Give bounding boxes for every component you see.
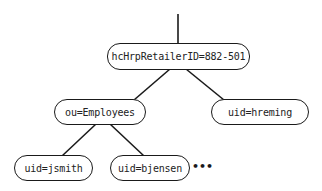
directory-tree-diagram: hcHrpRetailerID=882-501 ou=Employees uid…	[0, 0, 322, 191]
edge-root-to-hreming	[186, 69, 224, 100]
node-bjensen-label: uid=bjensen	[118, 163, 182, 174]
node-employees: ou=Employees	[54, 99, 146, 125]
more-siblings-ellipsis: •••	[192, 160, 213, 173]
node-jsmith: uid=jsmith	[14, 155, 93, 181]
node-hreming-label: uid=hreming	[228, 107, 292, 118]
node-employees-label: ou=Employees	[65, 107, 135, 118]
edge-employees-to-bjensen	[110, 124, 144, 156]
node-jsmith-label: uid=jsmith	[24, 163, 82, 174]
node-bjensen: uid=bjensen	[110, 155, 190, 181]
node-root: hcHrpRetailerID=882-501	[107, 43, 250, 70]
node-hreming: uid=hreming	[211, 99, 309, 125]
edge-employees-to-jsmith	[62, 124, 96, 156]
edge-root-to-employees	[134, 69, 170, 100]
node-root-label: hcHrpRetailerID=882-501	[112, 51, 246, 62]
